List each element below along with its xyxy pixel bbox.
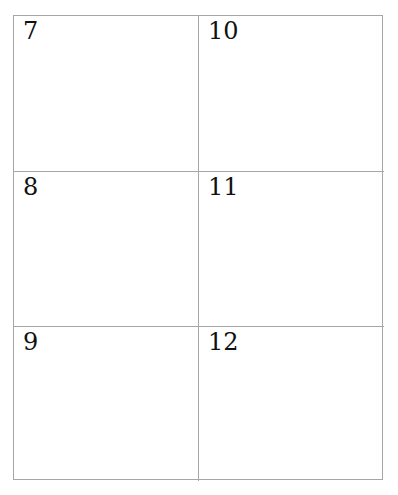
cell-number: 7 xyxy=(23,18,38,44)
cell-number: 12 xyxy=(208,329,239,355)
grid-cell-7: 7 xyxy=(14,16,199,172)
cell-number: 8 xyxy=(23,174,38,200)
cell-number: 9 xyxy=(23,329,38,355)
cell-number: 11 xyxy=(208,174,239,200)
grid-cell-9: 9 xyxy=(14,327,199,481)
grid-cell-8: 8 xyxy=(14,172,199,327)
grid-cell-11: 11 xyxy=(199,172,384,327)
grid-cell-10: 10 xyxy=(199,16,384,172)
cell-number: 10 xyxy=(208,18,239,44)
numbered-grid: 7 8 9 10 11 12 xyxy=(13,15,383,480)
grid-cell-12: 12 xyxy=(199,327,384,481)
